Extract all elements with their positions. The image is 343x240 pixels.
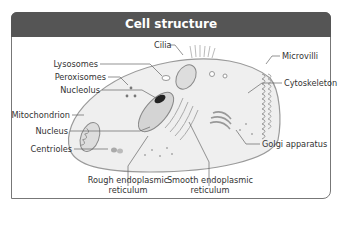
centriole (111, 148, 117, 153)
label-smooth-er: Smooth endoplasmic reticulum (160, 175, 260, 195)
label-cytoskeleton: Cytoskeleton (284, 78, 337, 88)
label-lysosomes: Lysosomes (40, 59, 98, 69)
cilia (190, 45, 215, 58)
lysosome (162, 76, 170, 81)
label-peroxisomes: Peroxisomes (20, 72, 106, 82)
label-cilia: Cilia (154, 40, 172, 50)
label-nucleolus: Nucleolus (40, 85, 100, 95)
label-centrioles: Centrioles (10, 144, 72, 154)
label-microvilli: Microvilli (282, 51, 318, 61)
label-mitochondrion: Mitochondrion (2, 110, 70, 120)
label-golgi: Golgi apparatus (262, 139, 327, 149)
label-nucleus: Nucleus (10, 126, 68, 136)
